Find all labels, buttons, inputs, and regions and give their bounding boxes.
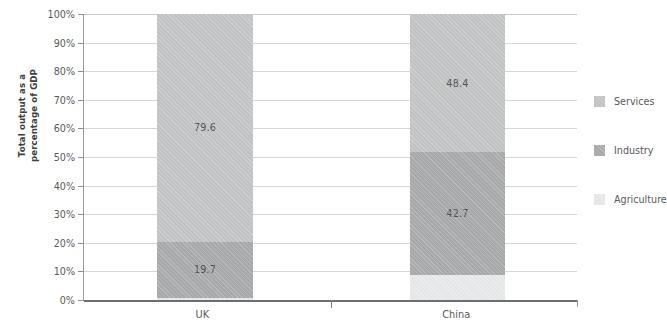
bar-segment-agriculture[interactable] [410,275,505,300]
bar-segment-services[interactable]: 79.6 [157,14,253,242]
y-axis-tick-label: 60% [54,123,75,134]
y-axis-tick-90 [78,43,84,44]
legend-swatch-texture [594,145,605,156]
y-axis-tick-40 [78,186,84,187]
y-axis-tick-60 [78,128,84,129]
y-axis-tick-label: 70% [54,94,75,105]
bar-segment-value-label: 79.6 [194,122,216,133]
y-axis-tick-50 [78,157,84,158]
y-axis-tick-label: 40% [54,180,75,191]
bar-china[interactable]: 48.442.7 [410,14,505,300]
y-axis-tick-label: 50% [54,152,75,163]
y-axis-tick-label: 80% [54,66,75,77]
legend-swatch-icon [594,96,605,107]
y-axis-tick-70 [78,100,84,101]
y-axis-tick-label: 30% [54,209,75,220]
y-axis-tick-30 [78,214,84,215]
legend-swatch-icon [594,194,605,205]
y-axis-tick-label: 20% [54,237,75,248]
legend-swatch-texture [594,96,605,107]
legend-label: Industry [614,145,653,156]
bar-segment-value-label: 19.7 [194,264,216,275]
x-axis-label-china: China [442,309,470,320]
y-axis-tick-label: 0% [60,295,75,306]
bar-segment-services[interactable]: 48.4 [410,14,505,152]
segment-texture [157,298,253,300]
y-axis-tick-label: 10% [54,266,75,277]
plot-area: 100%90%80%70%60%50%40%30%20%10%0% 79.619… [84,14,577,300]
bar-segment-industry[interactable]: 19.7 [157,242,253,298]
y-axis-tick-100 [78,14,84,15]
y-axis-tick-80 [78,71,84,72]
bar-segment-industry[interactable]: 42.7 [410,152,505,274]
legend-label: Services [614,96,654,107]
x-axis-label-uk: UK [196,309,210,320]
legend-swatch-icon [594,145,605,156]
legend-item-agriculture[interactable]: Agriculture [594,194,667,205]
y-axis-tick-20 [78,243,84,244]
bar-segment-agriculture[interactable] [157,298,253,300]
x-axis-end-tick [577,300,578,307]
y-axis-tick-0 [78,300,84,301]
y-axis-tick-10 [78,271,84,272]
legend-item-industry[interactable]: Industry [594,145,653,156]
bar-segment-value-label: 48.4 [446,78,468,89]
y-axis-title-line-1: Total output as a [17,36,29,196]
y-axis-title-line-2: percentage of GDP [28,36,40,196]
bar-uk[interactable]: 79.619.7 [157,14,253,300]
legend-item-services[interactable]: Services [594,96,654,107]
segment-texture [410,275,505,300]
bar-segment-value-label: 42.7 [446,208,468,219]
legend-swatch-texture [594,194,605,205]
y-axis-title: Total output as a percentage of GDP [17,36,40,196]
x-axis-separator-tick [331,300,332,308]
y-axis-tick-label: 90% [54,37,75,48]
y-axis-tick-label: 100% [48,9,75,20]
legend-label: Agriculture [614,194,667,205]
